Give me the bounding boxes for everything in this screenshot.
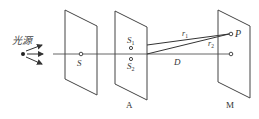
ray-r2 xyxy=(147,34,229,54)
screen-m-label: M xyxy=(226,100,234,110)
screen-m: P M xyxy=(218,10,250,110)
source-dot xyxy=(21,52,25,56)
point-p xyxy=(229,32,233,36)
center-point xyxy=(229,52,233,56)
double-slit-diagram: 光源 S S1 S2 A r1 r2 D P M xyxy=(0,0,259,119)
r2-label: r2 xyxy=(208,39,214,49)
screen-a-panel xyxy=(115,11,147,100)
light-source: 光源 xyxy=(12,35,43,64)
ray-r1 xyxy=(147,34,229,45)
screen-a: S1 S2 A xyxy=(115,11,147,110)
pinhole-s xyxy=(79,52,83,56)
screen-s: S xyxy=(65,10,97,95)
screen-a-label: A xyxy=(126,100,133,110)
ray-down-arrow-icon xyxy=(26,57,42,64)
s2-label: S2 xyxy=(127,61,135,72)
source-label: 光源 xyxy=(12,35,34,46)
d-label: D xyxy=(173,57,181,67)
slit-s1 xyxy=(129,46,132,49)
r1-label: r1 xyxy=(182,29,188,39)
s1-label: S1 xyxy=(127,35,135,46)
s-label: S xyxy=(77,58,82,68)
p-label: P xyxy=(234,28,241,39)
